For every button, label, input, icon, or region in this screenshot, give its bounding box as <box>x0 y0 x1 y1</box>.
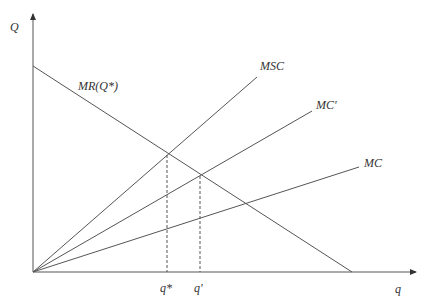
externality-diagram: Q q MR(Q*) MSC MC' MC q* q' <box>0 0 430 306</box>
mc-prime-curve <box>33 111 312 272</box>
q-star-label: q* <box>160 281 172 295</box>
mc-label: MC <box>363 156 383 170</box>
mc-curve <box>33 167 359 272</box>
mc-prime-label: MC' <box>315 98 337 112</box>
msc-curve <box>33 77 257 272</box>
mr-curve <box>33 66 352 272</box>
y-axis-label: Q <box>10 20 19 34</box>
msc-label: MSC <box>259 59 285 73</box>
mr-label: MR(Q*) <box>77 79 118 93</box>
q-prime-label: q' <box>194 281 203 295</box>
x-axis-label: q <box>395 282 401 296</box>
